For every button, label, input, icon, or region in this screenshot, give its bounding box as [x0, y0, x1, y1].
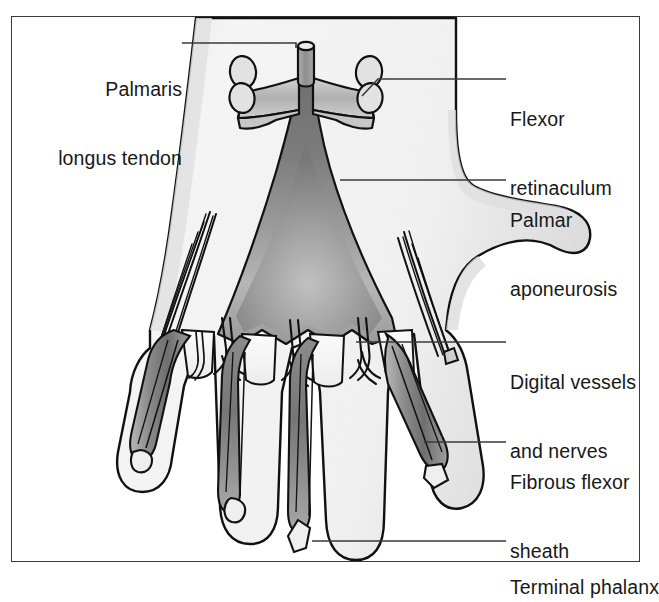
label-line: longus tendon: [38, 147, 182, 170]
label-terminal-phalanx: Terminal phalanx: [510, 530, 659, 602]
label-palmar-aponeurosis: Palmar aponeurosis: [510, 163, 617, 347]
terminal-phalanx-little: [131, 450, 152, 472]
label-line: Fibrous flexor: [510, 471, 630, 494]
label-line: Digital vessels: [510, 371, 636, 394]
label-palmaris-longus-tendon: Palmaris longus tendon: [38, 32, 182, 216]
label-line: aponeurosis: [510, 278, 617, 301]
label-line: Flexor: [510, 108, 612, 131]
label-line: Terminal phalanx: [510, 576, 659, 599]
label-line: Palmar: [510, 209, 617, 232]
terminal-phalanx-ring: [225, 498, 246, 522]
label-line: Palmaris: [38, 78, 182, 101]
palmaris-longus-tendon: [298, 42, 314, 87]
